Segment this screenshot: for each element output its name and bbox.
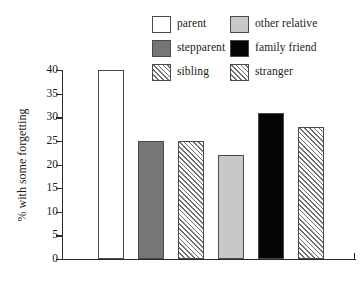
y-tick-label: 40 <box>47 64 59 76</box>
y-tick-label: 5 <box>52 230 58 242</box>
y-axis-line <box>62 70 63 259</box>
plot-area: 0510152025303540 <box>62 70 356 259</box>
legend-item-parent: parent <box>152 12 230 36</box>
bar-parent <box>98 70 124 259</box>
bar-other-relative <box>218 155 244 259</box>
legend-swatch-stepparent <box>152 40 171 57</box>
bar-family-friend <box>258 113 284 259</box>
legend-item-other-relative: other relative <box>230 12 358 36</box>
legend-label-family-friend: family friend <box>255 42 317 54</box>
y-axis-title-text: % with some forgetting <box>16 108 28 221</box>
bar-stranger <box>298 127 324 259</box>
legend-label-parent: parent <box>177 18 206 30</box>
legend-swatch-parent <box>152 16 171 33</box>
bar-sibling <box>178 141 204 259</box>
legend-swatch-other-relative <box>230 16 249 33</box>
x-axis-line <box>62 259 356 260</box>
y-axis-title: % with some forgetting <box>13 70 31 259</box>
y-tick-label: 35 <box>47 88 59 100</box>
bar-stepparent <box>138 141 164 259</box>
legend-item-family-friend: family friend <box>230 36 358 60</box>
legend-item-stepparent: stepparent <box>152 36 230 60</box>
y-tick-label: 15 <box>47 182 59 194</box>
x-axis-end-tick <box>354 253 355 260</box>
legend-label-stepparent: stepparent <box>177 42 225 54</box>
legend-label-other-relative: other relative <box>255 18 317 30</box>
bar-chart-figure: parent other relative stepparent family … <box>0 0 364 282</box>
y-tick-label: 10 <box>47 206 59 218</box>
y-tick-label: 30 <box>47 112 59 124</box>
y-tick-label: 0 <box>52 253 58 265</box>
y-tick-label: 20 <box>47 159 59 171</box>
legend-swatch-family-friend <box>230 40 249 57</box>
y-tick-label: 25 <box>47 135 59 147</box>
